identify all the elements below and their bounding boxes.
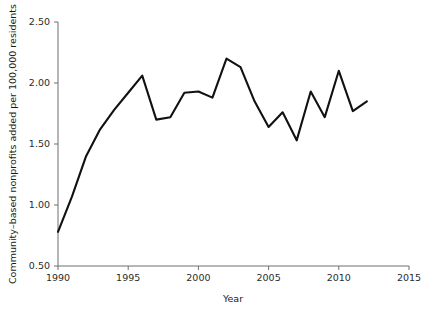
line-chart: 0.501.001.502.002.50 1990199520002005201… — [0, 0, 429, 318]
x-axis-tick-labels: 199019952000200520102015 — [46, 272, 421, 283]
x-tick-label: 2005 — [257, 272, 281, 283]
x-tick-label: 2015 — [397, 272, 421, 283]
y-axis-title: Community–based nonprofits added per 100… — [7, 4, 18, 284]
x-axis-tick-marks — [58, 266, 409, 270]
x-tick-label: 1990 — [46, 272, 70, 283]
y-axis-tick-labels: 0.501.001.502.002.50 — [29, 16, 50, 271]
y-tick-label: 0.50 — [29, 260, 50, 271]
y-tick-label: 2.00 — [29, 77, 50, 88]
y-tick-label: 1.50 — [29, 138, 50, 149]
x-tick-label: 1995 — [116, 272, 140, 283]
y-tick-label: 2.50 — [29, 16, 50, 27]
x-tick-label: 2010 — [327, 272, 351, 283]
y-axis-tick-marks — [54, 22, 58, 266]
x-axis-title: Year — [222, 293, 243, 304]
data-series-line — [58, 59, 367, 232]
x-tick-label: 2000 — [186, 272, 210, 283]
chart-figure: 0.501.001.502.002.50 1990199520002005201… — [0, 0, 429, 318]
y-tick-label: 1.00 — [29, 199, 50, 210]
